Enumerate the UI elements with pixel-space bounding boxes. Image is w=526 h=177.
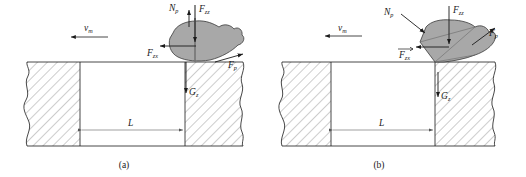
- rock-shape-b: [420, 20, 496, 62]
- force-label-Fzz-b: Fzz: [452, 5, 464, 16]
- panel-caption-b: (b): [373, 160, 384, 171]
- force-label-Np-b: Np: [383, 7, 393, 18]
- rock-shape-a: [169, 21, 244, 61]
- velocity-label-b: vm: [338, 23, 347, 34]
- svg-text:Fzx: Fzx: [398, 50, 410, 61]
- dimension-label-L-a: L: [127, 118, 133, 128]
- force-label-Fp-b: Fp: [488, 28, 498, 39]
- panel-caption-a: (a): [119, 160, 130, 171]
- velocity-label-a: vm: [84, 23, 93, 34]
- force-label-Fzx-a: Fzx: [146, 48, 158, 59]
- left-block-a: [20, 58, 90, 150]
- force-arrow-Np-b: [401, 14, 425, 33]
- dimension-label-L-b: L: [378, 118, 384, 128]
- force-label-Fzz-a: Fzz: [198, 4, 210, 15]
- left-block-b: [275, 58, 335, 150]
- diagram-panel-a: vm Np Fzz Fzx: [0, 0, 263, 177]
- diagram-panel-b: vm Np Fzz Fzx: [263, 0, 526, 177]
- force-label-Np-a: Np: [168, 3, 178, 14]
- figure-root: vm Np Fzz Fzx: [0, 0, 526, 177]
- right-block-b: [432, 58, 500, 150]
- force-label-Fzx-b: Fzx: [398, 47, 413, 61]
- right-block-a: [182, 58, 250, 150]
